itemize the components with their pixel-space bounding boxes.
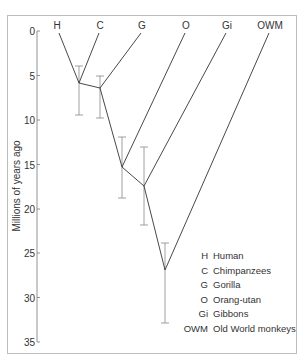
phylogenetic-tree: 0 5 10 15 20 25 30 35 Millions of years … xyxy=(0,0,306,364)
leaf-label-h: H xyxy=(53,20,60,31)
legend: H Human C Chimpanzees G Gorilla O Orang-… xyxy=(184,250,296,334)
legend-name-h: Human xyxy=(213,250,244,261)
tick-15: 15 xyxy=(24,160,36,171)
legend-abbr-h: H xyxy=(201,250,208,261)
legend-name-owm: Old World monkeys xyxy=(213,323,296,334)
error-bars xyxy=(75,66,169,323)
branches xyxy=(59,33,269,270)
leaf-labels: H C G O Gi OWM xyxy=(53,20,282,31)
leaf-label-o: O xyxy=(182,20,190,31)
legend-name-gi: Gibbons xyxy=(213,308,249,319)
legend-name-o: Orang-utan xyxy=(213,294,261,305)
leaf-label-c: C xyxy=(96,20,103,31)
leaf-label-g: G xyxy=(138,20,146,31)
legend-abbr-c: C xyxy=(201,265,208,276)
tick-30: 30 xyxy=(24,293,36,304)
tick-5: 5 xyxy=(29,71,35,82)
legend-name-g: Gorilla xyxy=(213,279,241,290)
leaf-label-gi: Gi xyxy=(222,20,232,31)
legend-abbr-o: O xyxy=(201,294,208,305)
legend-abbr-gi: Gi xyxy=(199,308,209,319)
tick-20: 20 xyxy=(24,204,36,215)
legend-abbr-g: G xyxy=(201,279,208,290)
leaf-label-owm: OWM xyxy=(257,20,283,31)
tick-0: 0 xyxy=(29,26,35,37)
y-axis-label: Millions of years ago xyxy=(11,140,22,232)
tick-10: 10 xyxy=(24,115,36,126)
y-axis: 0 5 10 15 20 25 30 35 Millions of years … xyxy=(11,26,40,348)
tick-35: 35 xyxy=(24,337,36,348)
legend-abbr-owm: OWM xyxy=(184,323,208,334)
legend-name-c: Chimpanzees xyxy=(213,265,271,276)
tick-25: 25 xyxy=(24,248,36,259)
